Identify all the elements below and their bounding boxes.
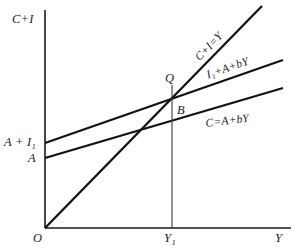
point-label-q: Q [165,72,174,85]
point-label-b: B [177,104,185,117]
origin-label: O [33,232,42,245]
x-tick-label-y1: Y₁ [164,232,176,245]
y-tick-label-a-plus-i1: A + I₁ [4,136,36,149]
keynesian-cross-figure: C+I A + I₁ A O Y₁ Y Q B C+I=Y I₁+A+bY C=… [0,0,296,252]
y-axis-label: C+I [12,13,34,26]
figure-canvas [0,0,296,252]
x-axis-label: Y [275,232,282,245]
aggregate-expenditure-line [45,60,283,143]
y-tick-label-a: A [28,152,36,165]
